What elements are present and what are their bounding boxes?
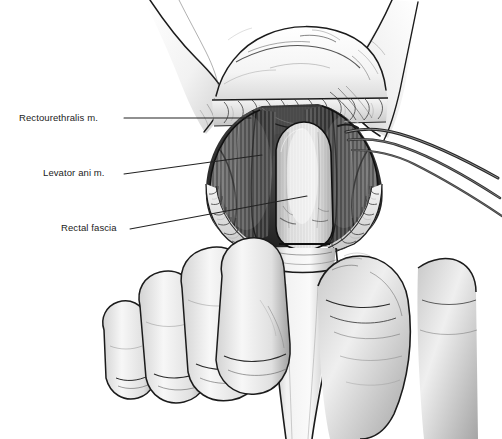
label-rectourethralis-m: Rectourethralis m.	[19, 113, 98, 123]
illustration-artwork	[0, 0, 502, 439]
label-levator-ani-m: Levator ani m.	[43, 168, 105, 178]
surgical-illustration-figure: Rectourethralis m. Levator ani m. Rectal…	[0, 0, 502, 439]
label-rectal-fascia: Rectal fascia	[61, 223, 117, 233]
